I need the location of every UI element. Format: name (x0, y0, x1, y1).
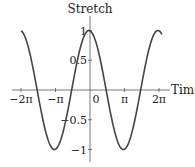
stretch-vs-time-chart: −2π−π0π2π 10.5−0.5−1 Stretch Time (0, 0, 195, 167)
x-ticks: −2π−π0π2π (9, 88, 166, 106)
x-tick-label: 2π (152, 93, 166, 106)
y-ticks: 10.5−0.5−1 (60, 25, 92, 157)
x-axis-title: Time (171, 83, 195, 97)
x-tick-label: π (121, 93, 128, 106)
x-tick-label: 0 (93, 93, 100, 106)
y-tick-label: −1 (71, 144, 87, 157)
y-axis-title: Stretch (67, 2, 112, 16)
x-tick-label: −π (47, 93, 63, 106)
x-tick-label: −2π (9, 93, 32, 106)
